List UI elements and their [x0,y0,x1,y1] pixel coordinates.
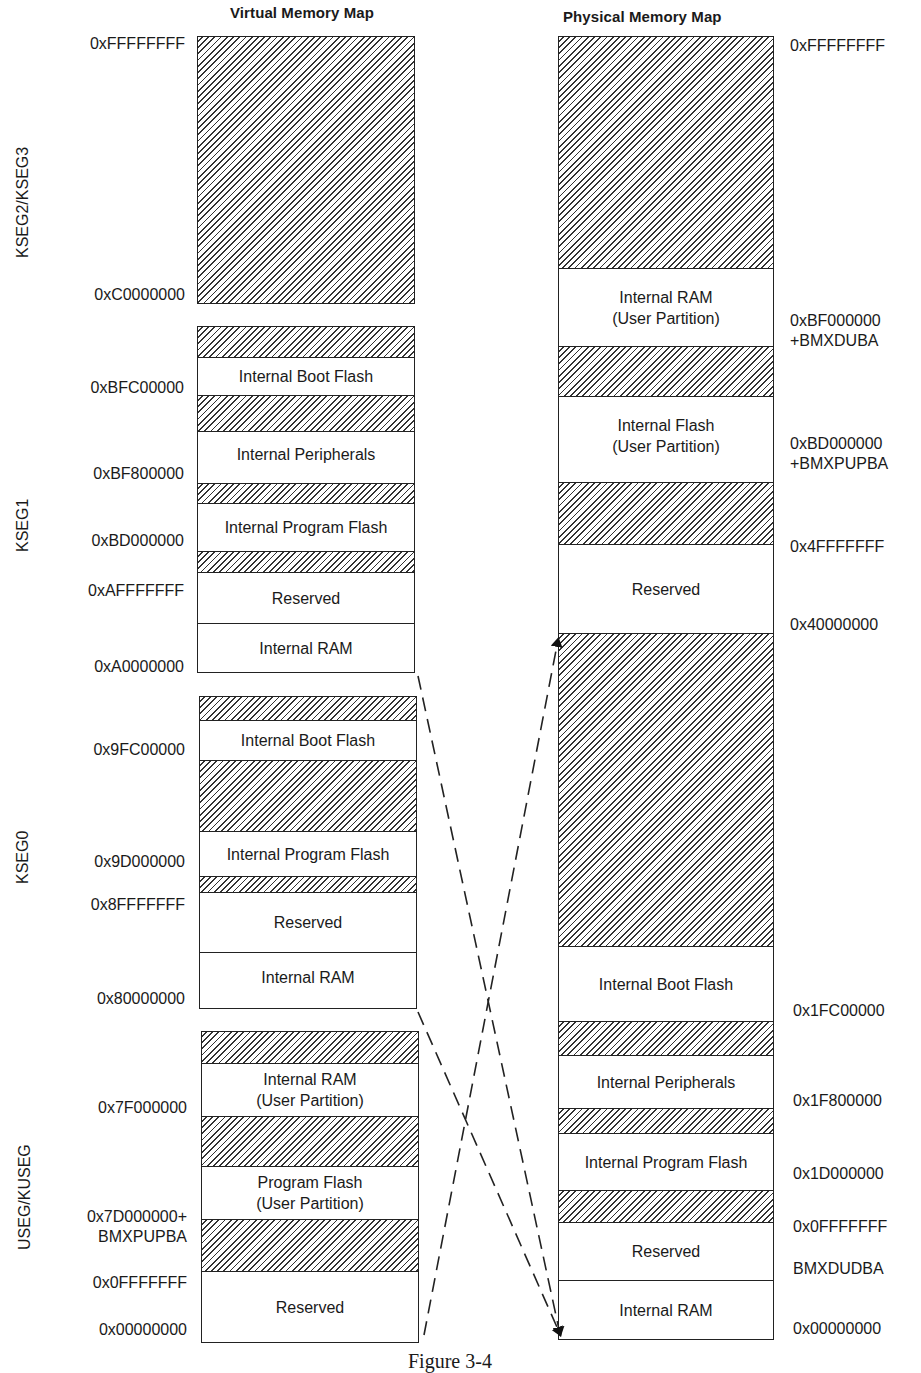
address-label: 0x40000000 [790,615,878,635]
segment-label-kseg1: KSEG1 [14,499,32,552]
virtual-kseg1-block: Internal Boot Flash Internal Peripherals… [197,326,415,673]
virtual-kseg0-block: Internal Boot Flash Internal Program Fla… [199,696,417,1009]
address-label: 0x4FFFFFFF [790,537,884,557]
address-label: 0x7F000000 [98,1098,187,1118]
physical-memory-block: Internal RAM (User Partition) Internal F… [558,36,774,1340]
physical-map-title: Physical Memory Map [563,8,722,25]
address-label: 0xAFFFFFFF [88,581,184,601]
address-label: 0x9D000000 [94,852,185,872]
address-label: 0xFFFFFFFF [90,34,185,54]
address-label: 0x80000000 [97,989,185,1009]
figure-caption: Figure 3-4 [408,1350,492,1373]
arrow-kseg0-to-physical-ram [418,1012,560,1334]
address-label: 0x00000000 [99,1320,187,1340]
arrow-kseg1-to-physical-ram [418,676,560,1334]
address-label: 0x0FFFFFFF [93,1273,187,1293]
virtual-map-title: Virtual Memory Map [230,4,374,21]
arrow-useg-to-physical-0x40000000 [424,640,558,1335]
address-label: 0xBF800000 [93,464,184,484]
address-label: 0xBFC00000 [91,378,184,398]
address-label: 0xBD000000 [91,531,184,551]
address-label: 0x00000000 [793,1319,881,1339]
virtual-useg-block: Internal RAM (User Partition) Program Fl… [201,1031,419,1343]
segment-label-kseg3: KSEG2/KSEG3 [14,147,32,258]
address-label: 0xA0000000 [94,657,184,677]
segment-label-useg: USEG/KUSEG [16,1144,34,1250]
address-label: 0xBD000000 +BMXPUPBA [790,434,888,474]
address-label: 0xFFFFFFFF [790,36,885,56]
address-label: 0x7D000000+ BMXPUPBA [87,1207,187,1247]
address-label: 0x1D000000 [793,1164,884,1184]
address-label: 0x8FFFFFFF [91,895,185,915]
segment-label-kseg0: KSEG0 [14,831,32,884]
address-label: 0x1FC00000 [793,1001,885,1021]
address-label: 0x9FC00000 [93,740,185,760]
address-label: 0x1F800000 [793,1091,882,1111]
address-label: 0x0FFFFFFF [793,1217,887,1237]
address-label: 0xC0000000 [94,285,185,305]
address-label: BMXDUDBA [793,1259,884,1279]
virtual-kseg3-block [197,36,415,304]
address-label: 0xBF000000 +BMXDUBA [790,311,881,351]
